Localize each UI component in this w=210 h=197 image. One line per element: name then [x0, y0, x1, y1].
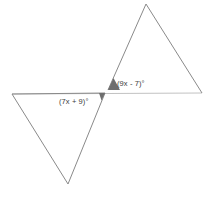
geometry-diagram [0, 0, 210, 197]
lower-angle-label: (7x + 9)° [59, 97, 89, 106]
lower-angle-wedge [99, 93, 105, 101]
geometry-figure: (9x - 7)° (7x + 9)° [0, 0, 210, 197]
upper-angle-label: (9x - 7)° [117, 79, 145, 88]
lower-left-triangle [12, 93, 105, 184]
